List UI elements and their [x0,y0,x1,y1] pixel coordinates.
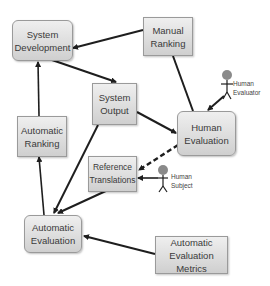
node-human-evaluation: Human Evaluation [177,111,236,156]
node-system-output: System Output [92,83,137,125]
edge-human-evaluator-to-human-evaluation [208,96,224,110]
node-reference-translations: Reference Translations [88,156,137,192]
node-label: Automatic Evaluation [31,221,75,247]
node-label: Reference Translations [90,161,136,187]
node-label: System Development [15,28,71,54]
human-subject-stick-figure-icon [158,165,168,192]
edge-human-evaluation-to-manual-ranking [173,56,193,111]
node-system-development: System Development [12,20,73,61]
node-label: System Output [99,91,131,117]
edge-system-output-to-human-evaluation [137,112,176,133]
edge-human-evaluation-to-reference-translations [139,145,178,170]
node-automatic-ranking: Automatic Ranking [17,116,67,157]
edge-metrics-to-automatic-evaluation [84,236,155,254]
edge-automatic-evaluation-to-automatic-ranking [39,157,44,215]
edge-reference-translations-to-automatic-evaluation [58,190,108,213]
node-label: Automatic Evaluation Metrics [156,236,227,275]
node-manual-ranking: Manual Ranking [143,17,193,56]
human-evaluator-stick-figure-icon [221,70,233,99]
edge-system-development-to-system-output [52,60,116,82]
human-evaluator-label: Human Evaluator [233,79,260,97]
node-automatic-evaluation-metrics: Automatic Evaluation Metrics [155,236,228,274]
human-subject-label: Human Subject [171,172,193,190]
node-label: Human Evaluation [184,121,228,147]
node-label: Manual Ranking [151,24,186,50]
edge-manual-ranking-to-system-development [73,30,143,48]
node-label: Automatic Ranking [21,124,63,150]
edge-automatic-ranking-to-system-development [38,62,39,116]
node-automatic-evaluation: Automatic Evaluation [24,215,82,253]
